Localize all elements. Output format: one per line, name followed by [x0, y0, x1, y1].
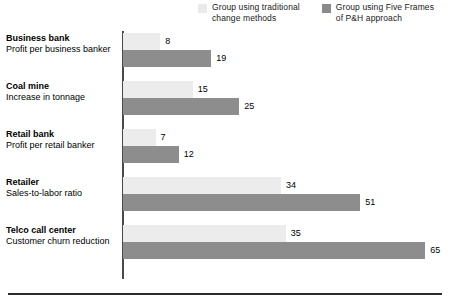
bar-row: 12: [123, 146, 450, 163]
category-label: Business bankProfit per business banker: [6, 33, 118, 55]
bar-value-label: 51: [365, 197, 375, 208]
bar-group: Coal mineIncrease in tonnage1525: [0, 81, 450, 115]
category-metric: Sales-to-labor ratio: [6, 188, 118, 199]
category-label: Coal mineIncrease in tonnage: [6, 81, 118, 103]
bar-value-label: 35: [291, 228, 301, 239]
legend-entry-five-frames: Group using Five Frames of P&H approach: [322, 2, 434, 23]
bar-row: 8: [123, 33, 450, 50]
category-label: RetailerSales-to-labor ratio: [6, 177, 118, 199]
bar[interactable]: [123, 50, 211, 67]
bar-row: 7: [123, 129, 450, 146]
legend-swatch-light-icon: [198, 4, 207, 13]
footer-rule: [8, 293, 442, 295]
chart-legend: Group using traditional change methods G…: [198, 2, 434, 23]
chart-plot-area: Business bankProfit per business banker8…: [0, 30, 450, 280]
bar-row: 65: [123, 242, 450, 259]
bar-value-label: 65: [430, 245, 440, 256]
bar[interactable]: [123, 225, 286, 242]
bar-value-label: 25: [244, 101, 254, 112]
bar[interactable]: [123, 242, 425, 259]
bar-row: 15: [123, 81, 450, 98]
bar-group: Business bankProfit per business banker8…: [0, 33, 450, 67]
category-name: Retailer: [6, 177, 118, 188]
category-label: Telco call centerCustomer churn reductio…: [6, 225, 118, 247]
bar-value-label: 7: [161, 132, 166, 143]
category-metric: Customer churn reduction: [6, 236, 118, 247]
category-label: Retail bankProfit per retail banker: [6, 129, 118, 151]
legend-label-traditional: Group using traditional change methods: [212, 2, 300, 23]
category-name: Coal mine: [6, 81, 118, 92]
bar[interactable]: [123, 33, 160, 50]
category-metric: Profit per business banker: [6, 44, 118, 55]
bar-row: 51: [123, 194, 450, 211]
category-metric: Profit per retail banker: [6, 140, 118, 151]
bar-group: Telco call centerCustomer churn reductio…: [0, 225, 450, 259]
bar[interactable]: [123, 98, 239, 115]
bar-value-label: 12: [184, 149, 194, 160]
bar-group: Retail bankProfit per retail banker712: [0, 129, 450, 163]
bar-group: RetailerSales-to-labor ratio3451: [0, 177, 450, 211]
bar-row: 35: [123, 225, 450, 242]
legend-entry-traditional: Group using traditional change methods: [198, 2, 300, 23]
bar-value-label: 15: [198, 84, 208, 95]
bar-value-label: 34: [286, 180, 296, 191]
category-metric: Increase in tonnage: [6, 92, 118, 103]
bar-value-label: 19: [216, 53, 226, 64]
legend-label-five-frames: Group using Five Frames of P&H approach: [336, 2, 434, 23]
legend-swatch-dark-icon: [322, 4, 331, 13]
bar-row: 34: [123, 177, 450, 194]
bar-value-label: 8: [165, 36, 170, 47]
bar-row: 25: [123, 98, 450, 115]
category-name: Retail bank: [6, 129, 118, 140]
bar[interactable]: [123, 146, 179, 163]
bar-row: 19: [123, 50, 450, 67]
category-name: Telco call center: [6, 225, 118, 236]
bar[interactable]: [123, 194, 360, 211]
bar[interactable]: [123, 177, 281, 194]
category-name: Business bank: [6, 33, 118, 44]
bar[interactable]: [123, 81, 193, 98]
bar[interactable]: [123, 129, 156, 146]
